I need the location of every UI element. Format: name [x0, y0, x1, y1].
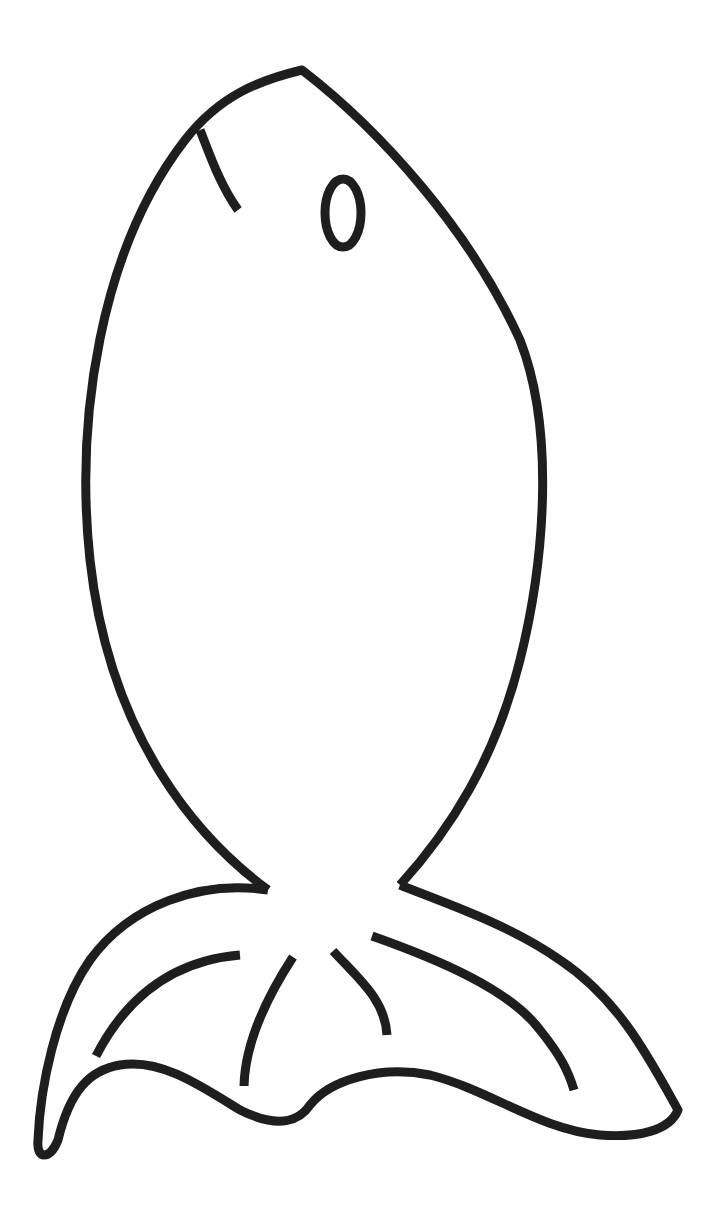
- eye-oval: [325, 179, 361, 247]
- mouth-line: [200, 130, 238, 210]
- tail-stripe-3: [333, 951, 387, 1035]
- tail-stripe-2: [244, 957, 293, 1086]
- tail-stripe-4: [372, 936, 574, 1090]
- fish-body-outline: [86, 70, 543, 890]
- tail-fin-outline: [38, 885, 678, 1155]
- coloring-page-canvas: [0, 0, 715, 1216]
- tail-stripe-1: [96, 955, 240, 1056]
- fish-drawing: [0, 0, 715, 1216]
